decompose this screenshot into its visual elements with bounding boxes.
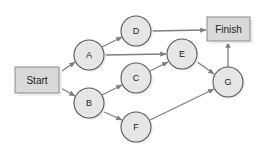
- edge-d-finish: [151, 30, 206, 31]
- node-c: C: [121, 63, 153, 95]
- edge-b-f: [102, 111, 122, 120]
- node-b: B: [74, 88, 106, 120]
- node-c-label: C: [133, 73, 140, 83]
- node-d: D: [121, 16, 153, 48]
- node-f: F: [121, 112, 153, 144]
- start-label: Start: [26, 75, 47, 86]
- edge-b-c: [102, 85, 122, 95]
- edge-a-e: [104, 54, 166, 55]
- node-g-label: G: [224, 77, 231, 87]
- node-g: G: [213, 67, 245, 99]
- node-b-label: B: [86, 98, 92, 108]
- edge-e-g: [196, 61, 214, 74]
- node-a-label: A: [86, 50, 92, 60]
- node-e: E: [167, 39, 199, 71]
- finish-box: Finish: [207, 17, 253, 44]
- start-box: Start: [15, 67, 62, 96]
- edge-a-d: [102, 37, 122, 47]
- edge-f-g: [150, 89, 214, 120]
- node-f-label: F: [133, 122, 139, 132]
- node-a: A: [74, 40, 106, 72]
- network-diagram: Start Finish A B C D E F G: [0, 0, 269, 156]
- finish-label: Finish: [215, 24, 242, 35]
- node-e-label: E: [179, 49, 185, 59]
- edge-c-e: [150, 62, 168, 71]
- node-d-label: D: [133, 26, 140, 36]
